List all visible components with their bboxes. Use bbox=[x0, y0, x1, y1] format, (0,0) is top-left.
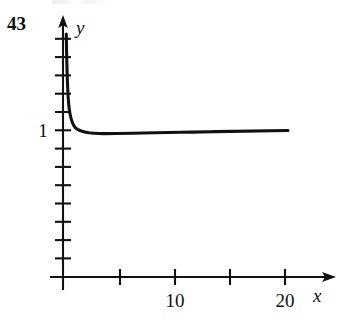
y-tick-label-1: 1 bbox=[38, 120, 48, 141]
x-tick-label-20: 20 bbox=[276, 290, 295, 311]
y-axis-label: y bbox=[74, 17, 85, 38]
figure-panel: 43 bbox=[0, 0, 350, 322]
x-tick-label-10: 10 bbox=[166, 290, 185, 311]
x-axis-label: x bbox=[312, 285, 322, 306]
graph-figure: y x 1 10 20 bbox=[0, 0, 350, 322]
curve-path bbox=[66, 34, 288, 134]
